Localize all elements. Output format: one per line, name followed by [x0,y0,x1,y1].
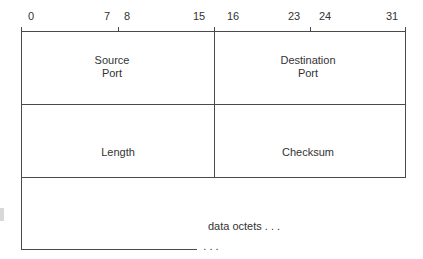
bit-label-15: 15 [193,10,205,22]
field-data-octets: data octets . . . [208,220,280,233]
continuation-ellipsis: . . . [203,240,218,253]
row-divider-1 [21,104,406,105]
bottom-partial-border [21,249,197,250]
bit-label-7: 7 [104,10,110,22]
bit-label-24: 24 [319,10,331,22]
bit-label-8: 8 [124,10,130,22]
tick-24 [310,27,311,32]
field-length: Length [101,146,135,159]
row-divider-2 [21,177,406,178]
left-border [21,31,22,250]
bit-label-16: 16 [227,10,239,22]
bit-label-31: 31 [386,10,398,22]
field-destination-port: Destination Port [280,54,335,80]
tick-8 [118,27,119,32]
bit-label-23: 23 [288,10,300,22]
scan-artifact [0,208,4,221]
field-checksum: Checksum [282,146,334,159]
field-source-port: Source Port [95,54,130,80]
bit-label-0: 0 [28,10,34,22]
